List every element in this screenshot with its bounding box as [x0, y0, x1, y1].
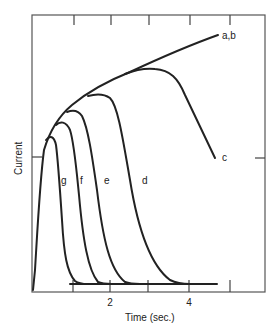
label-f: f: [80, 175, 83, 186]
label-g: g: [61, 175, 67, 186]
label-a-b: a,b: [222, 30, 236, 41]
x-tick-label-2: 2: [107, 297, 113, 308]
curve-e: [67, 111, 140, 284]
curve-f: [56, 122, 112, 284]
top-ticks: [74, 15, 230, 25]
y-axis-title: Current: [13, 141, 24, 175]
curve-c: [125, 69, 215, 158]
label-e: e: [104, 175, 110, 186]
current-vs-time-chart: a,b c d e f g 2 4 Time (sec.) Current: [0, 0, 280, 334]
curve-d: [88, 94, 190, 284]
curve-g: [46, 137, 88, 284]
x-axis-title: Time (sec.): [125, 312, 175, 323]
label-c: c: [222, 152, 227, 163]
label-d: d: [142, 175, 148, 186]
bottom-ticks: [73, 280, 230, 292]
x-tick-label-4: 4: [186, 297, 192, 308]
